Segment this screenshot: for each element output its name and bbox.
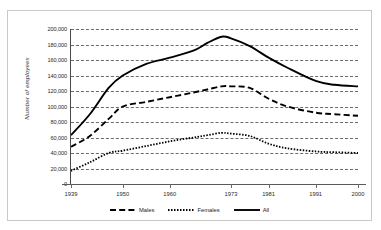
legend-swatch-dashed (110, 207, 136, 213)
x-axis-tick-mark (71, 184, 72, 188)
figure-frame: Number of employees 200,000180,000160,00… (7, 10, 372, 221)
x-axis-tick-label: 2000 (352, 191, 365, 197)
x-axis-tick-mark (231, 184, 232, 188)
x-axis-tick-mark (316, 184, 317, 188)
y-axis-tick-label: 120,000 (47, 88, 67, 94)
x-axis-tick-label: 1960 (163, 191, 176, 197)
y-axis-tick-label: 140,000 (47, 73, 67, 79)
legend-label: Females (197, 207, 219, 213)
legend-label: Males (139, 207, 154, 213)
x-axis-tick-mark (123, 184, 124, 188)
x-axis-tick-label: 1981 (262, 191, 275, 197)
legend-item-females[interactable]: Females (168, 207, 219, 213)
legend-swatch-dotted (168, 207, 194, 213)
series-line-males (71, 86, 358, 147)
chart-legend: MalesFemalesAll (8, 207, 371, 213)
y-axis-tick-label: 180,000 (47, 42, 67, 48)
x-axis-tick-mark (358, 184, 359, 188)
chart-screenshot: Number of employees 200,000180,000160,00… (0, 0, 381, 230)
legend-item-all[interactable]: All (234, 207, 269, 213)
x-axis-tick-mark (269, 184, 270, 188)
y-axis-tick-label: 40,000 (50, 150, 67, 156)
legend-swatch-solid (234, 207, 260, 213)
top-caption-text (6, 0, 246, 8)
series-line-females (71, 133, 358, 171)
x-axis-tick-label: 1991 (309, 191, 322, 197)
y-axis-tick-label: 20,000 (50, 166, 67, 172)
y-axis-tick-label: 80,000 (50, 119, 67, 125)
y-axis-tick-label: 200,000 (47, 26, 67, 32)
legend-label: All (263, 207, 269, 213)
y-axis-tick-labels: 200,000180,000160,000140,000120,000100,0… (26, 29, 70, 184)
y-axis-tick-label: 160,000 (47, 57, 67, 63)
x-axis-tick-label: 1950 (116, 191, 129, 197)
legend-item-males[interactable]: Males (110, 207, 154, 213)
x-axis-line (62, 184, 366, 185)
series-line-all (71, 36, 358, 135)
plot-wrapper: Number of employees 200,000180,000160,00… (8, 11, 371, 220)
x-axis-tick-mark (170, 184, 171, 188)
series-lines (71, 29, 358, 184)
y-axis-tick-label: 60,000 (50, 135, 67, 141)
x-axis-tick-label: 1939 (65, 191, 78, 197)
x-axis-tick-label: 1973 (225, 191, 238, 197)
y-axis-tick-label: 100,000 (47, 104, 67, 110)
